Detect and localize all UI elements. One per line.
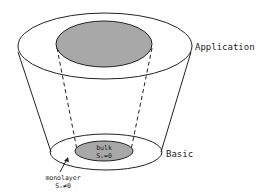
left-side-line [18,52,51,152]
monolayer-arrow-head [64,157,69,162]
top-inner-ellipse [56,21,152,67]
label-basic: Basic [166,149,193,159]
label-application: Application [195,42,255,52]
right-side-line [161,52,191,152]
label-monolayer-eq: Sᵢ≠0 [55,182,71,190]
label-bulk: bulk [96,144,112,152]
funnel-diagram: Application Basic bulk Sᵢ=0 monolayer Sᵢ… [0,0,272,196]
label-bulk-eq: Sᵢ=0 [96,152,112,160]
label-monolayer: monolayer [45,174,80,182]
left-dashed-line [57,48,77,150]
right-dashed-line [131,48,152,150]
